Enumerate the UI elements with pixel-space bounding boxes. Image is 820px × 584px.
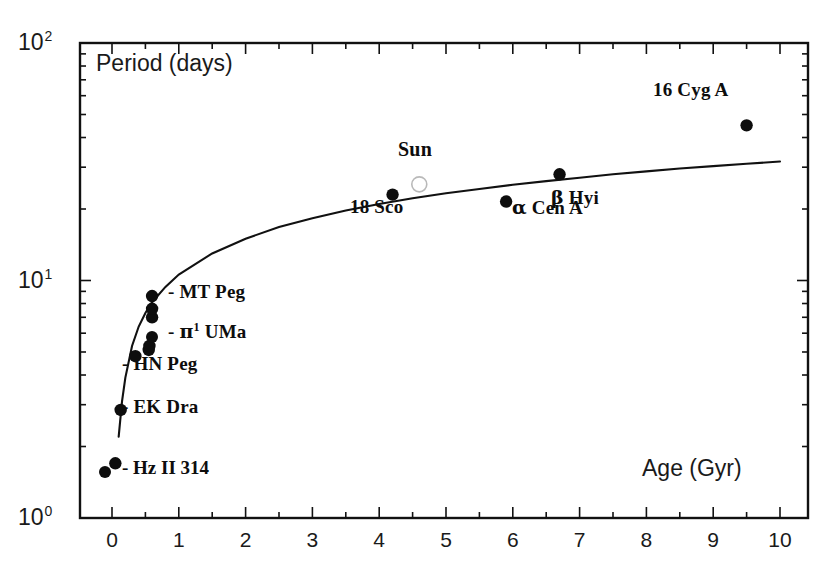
x-axis-tick-8: 8 — [641, 528, 653, 552]
x-axis-tick-0: 0 — [106, 528, 118, 552]
point-label-pi1-uma: - π1 UMa — [168, 320, 247, 343]
point-label-sun: Sun — [398, 138, 432, 161]
x-axis-tick-3: 3 — [307, 528, 319, 552]
x-axis-tick-7: 7 — [574, 528, 586, 552]
y-axis-label-100: 102 — [18, 28, 52, 56]
point-label-16-cyg-a: 16 Cyg A — [653, 79, 729, 101]
point-label-beta-hyi: β Hyi — [551, 186, 599, 209]
x-axis-tick-2: 2 — [240, 528, 252, 552]
y-axis-label-1: 100 — [18, 503, 52, 531]
y-axis-label-10: 101 — [18, 266, 52, 294]
x-axis-title: Age (Gyr) — [642, 455, 742, 482]
x-axis-tick-6: 6 — [507, 528, 519, 552]
point-label-mt-peg: - MT Peg — [168, 281, 245, 303]
y-axis-title: Period (days) — [96, 50, 233, 77]
point-label-ek-dra: - EK Dra — [122, 396, 199, 418]
x-axis-tick-1: 1 — [173, 528, 185, 552]
point-label-hn-peg: - HN Peg — [122, 353, 197, 375]
chart-figure: 012345678910 102 101 100 Period (days) A… — [0, 0, 820, 584]
x-axis-tick-5: 5 — [440, 528, 452, 552]
x-axis-tick-9: 9 — [707, 528, 719, 552]
x-axis-tick-4: 4 — [373, 528, 385, 552]
x-axis-tick-10: 10 — [768, 528, 791, 552]
point-label-18-sco: 18 Sco — [350, 196, 403, 218]
point-label-hz-ii-314: - Hz II 314 — [122, 457, 209, 479]
